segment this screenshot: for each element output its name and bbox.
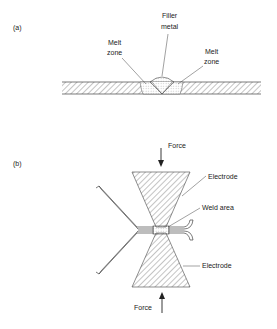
electrode-top-label: Electrode: [208, 173, 238, 180]
svg-text:zone: zone: [204, 58, 219, 65]
svg-text:zone: zone: [107, 49, 122, 56]
sheet-lower-right: [168, 231, 193, 240]
panel-a-label: (a): [13, 24, 22, 32]
weld-area-label: Weld area: [202, 204, 234, 211]
melt-zone-right-label: Melt: [205, 48, 218, 55]
force-top-label: Force: [168, 142, 186, 149]
arrow-up-icon: [159, 292, 165, 299]
melt-zone-left-label: Melt: [108, 39, 121, 46]
filler-metal-label: Filler: [162, 12, 178, 19]
electrode-bottom-label: Electrode: [202, 262, 232, 269]
force-bottom-label: Force: [134, 304, 152, 311]
svg-text:metal: metal: [161, 23, 179, 30]
electrode-top: [132, 172, 190, 227]
panel-a: (a) Melt zone Filler metal Melt zone: [13, 12, 261, 94]
electrode-bottom: [132, 233, 190, 287]
panel-b: (b) Force Electrode Weld area Electrode …: [13, 142, 238, 313]
welding-diagram: (a) Melt zone Filler metal Melt zone (b)…: [0, 0, 277, 329]
arrow-down-icon: [158, 160, 164, 167]
weld-area: [153, 226, 169, 234]
panel-b-label: (b): [13, 160, 22, 168]
